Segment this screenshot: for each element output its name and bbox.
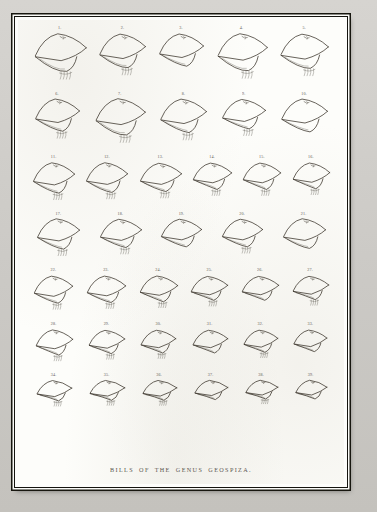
bill-figure-2: 2.: [97, 26, 147, 83]
figure-number: 28.: [51, 322, 57, 326]
bill-profile-drawing: [32, 273, 74, 317]
bill-profile-drawing: [159, 216, 203, 261]
figure-number: 18.: [118, 212, 124, 216]
bill-profile-drawing: [139, 327, 177, 366]
figure-row-7: 34.35.36.37.38.39.: [27, 373, 335, 415]
figure-number: 30.: [155, 322, 161, 326]
bill-profile-drawing: [157, 31, 205, 81]
bill-figure-36: 36.: [141, 373, 178, 414]
bill-profile-drawing: [34, 327, 74, 368]
bill-figure-38: 38.: [244, 373, 279, 412]
bill-figure-12: 12.: [84, 155, 129, 206]
bill-figure-34: 34.: [35, 373, 73, 415]
bill-figure-10: 10.: [279, 92, 329, 148]
bill-figure-9: 9.: [220, 92, 267, 145]
bill-figure-30: 30.: [139, 322, 177, 366]
bill-profile-drawing: [141, 377, 178, 413]
figure-number: 34.: [51, 373, 57, 377]
bill-figure-6: 6.: [33, 92, 81, 147]
figure-number: 29.: [104, 322, 110, 326]
bill-figure-8: 8.: [158, 92, 208, 149]
bill-figure-17: 17.: [35, 212, 81, 264]
bill-figure-35: 35.: [88, 373, 126, 414]
bill-figure-27: 27.: [291, 268, 330, 313]
figure-number: 15.: [259, 155, 265, 159]
bill-profile-drawing: [291, 160, 331, 202]
bill-figure-29: 29.: [87, 322, 126, 367]
bill-figure-11: 11.: [31, 155, 76, 207]
bill-profile-drawing: [193, 377, 229, 412]
bill-profile-drawing: [191, 160, 233, 203]
bill-figure-4: 4.: [215, 26, 269, 86]
bill-profile-drawing: [98, 216, 143, 262]
bill-figure-37: 37.: [193, 373, 229, 413]
bill-profile-drawing: [84, 160, 129, 206]
bill-profile-drawing: [242, 327, 279, 365]
bill-profile-drawing: [31, 160, 76, 207]
figure-number: 13.: [157, 155, 163, 159]
plate-page: 1.2.3.4.5.6.7.8.9.10.11.12.13.14.15.16.1…: [0, 0, 377, 512]
figure-number: 23.: [103, 268, 109, 272]
bill-profile-drawing: [291, 273, 330, 313]
figure-number: 9.: [242, 92, 245, 96]
figure-row-4: 17.18.19.20.21.: [27, 212, 335, 264]
figure-number: 31.: [207, 322, 213, 326]
bill-profile-drawing: [32, 31, 88, 87]
bill-profile-drawing: [35, 377, 73, 414]
figure-number: 33.: [307, 322, 313, 326]
bill-figure-5: 5.: [278, 26, 330, 84]
bill-profile-drawing: [87, 327, 126, 367]
bill-profile-drawing: [97, 31, 147, 83]
bill-figure-32: 32.: [242, 322, 279, 365]
bill-profile-drawing: [241, 160, 282, 203]
bill-figure-33: 33.: [292, 322, 328, 364]
figure-number: 27.: [307, 268, 313, 272]
bill-profile-drawing: [240, 273, 280, 314]
figure-row-2: 6.7.8.9.10.: [27, 92, 335, 151]
bill-figure-3: 3.: [157, 26, 205, 81]
plate-frame: 1.2.3.4.5.6.7.8.9.10.11.12.13.14.15.16.1…: [14, 16, 348, 488]
bill-figure-26: 26.: [240, 268, 280, 314]
figure-number: 2.: [121, 26, 124, 30]
figure-number: 36.: [156, 373, 162, 377]
figure-grid: 1.2.3.4.5.6.7.8.9.10.11.12.13.14.15.16.1…: [18, 26, 344, 414]
figure-number: 32.: [258, 322, 264, 326]
bill-figure-18: 18.: [98, 212, 143, 263]
bill-figure-23: 23.: [85, 268, 127, 316]
figure-number: 21.: [301, 212, 307, 216]
bill-figure-13: 13.: [138, 155, 183, 206]
figure-number: 6.: [55, 92, 58, 96]
bill-figure-14: 14.: [191, 155, 233, 203]
bill-profile-drawing: [278, 31, 330, 84]
bill-profile-drawing: [215, 31, 269, 86]
bill-figure-28: 28.: [34, 322, 74, 368]
bill-figure-15: 15.: [241, 155, 282, 203]
bill-figure-25: 25.: [189, 268, 229, 314]
bill-profile-drawing: [35, 216, 81, 263]
figure-number: 20.: [239, 212, 245, 216]
bill-figure-16: 16.: [291, 155, 331, 202]
figure-number: 39.: [308, 373, 314, 377]
bill-profile-drawing: [281, 216, 327, 262]
bill-profile-drawing: [244, 377, 279, 411]
bill-profile-drawing: [189, 273, 229, 314]
figure-number: 26.: [257, 268, 263, 272]
plate-caption: BILLS OF THE GENUS GEOSPIZA.: [18, 466, 344, 473]
figure-number: 3.: [179, 26, 182, 30]
figure-row-1: 1.2.3.4.5.: [27, 26, 335, 87]
bill-profile-drawing: [220, 216, 264, 261]
figure-number: 10.: [301, 92, 307, 96]
figure-number: 35.: [104, 373, 110, 377]
figure-number: 14.: [209, 155, 215, 159]
bill-profile-drawing: [93, 96, 147, 150]
figure-number: 5.: [302, 26, 305, 30]
figure-number: 8.: [182, 92, 185, 96]
figure-number: 19.: [179, 212, 185, 216]
bill-profile-drawing: [292, 327, 328, 364]
figure-number: 7.: [118, 92, 121, 96]
bill-profile-drawing: [279, 96, 329, 147]
figure-number: 17.: [55, 212, 61, 216]
bill-profile-drawing: [191, 327, 229, 366]
figure-row-6: 28.29.30.31.32.33.: [27, 322, 335, 368]
bill-profile-drawing: [158, 96, 208, 148]
